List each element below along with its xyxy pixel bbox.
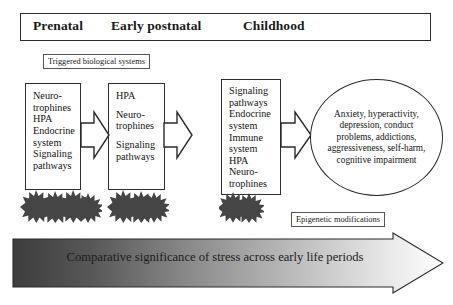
stage-line: Neuro-: [229, 166, 280, 178]
stage-line: trophines: [116, 120, 164, 132]
stage-line: HPA: [116, 90, 164, 102]
stage-line-gap: [116, 102, 164, 109]
period-label-early-postnatal: Early postnatal: [111, 18, 201, 34]
block-arrow-right-icon: [80, 110, 110, 160]
stage-line: pathways: [33, 160, 80, 172]
stage-line: HPA: [229, 155, 280, 167]
stage-line: Endocrine: [33, 125, 80, 137]
stage-line: system: [229, 120, 280, 132]
starburst-cluster-childhood-icon: [219, 192, 264, 223]
stage-line: pathways: [116, 151, 164, 163]
caption-epigenetic-modifications: Epigenetic modifications: [291, 212, 385, 227]
figure-canvas: Prenatal Early postnatal Childhood Trigg…: [0, 0, 453, 305]
period-label-prenatal: Prenatal: [33, 18, 83, 34]
stage-line: Signaling: [33, 148, 80, 160]
caption-triggered-biological-systems: Triggered biological systems: [43, 54, 150, 69]
stage-line-gap: [116, 132, 164, 139]
stage-line: trophines: [229, 178, 280, 190]
block-arrow-right-icon: [163, 110, 193, 160]
block-arrow-right-icon: [280, 110, 312, 160]
stage-line: system: [229, 143, 280, 155]
starburst-cluster-early-postnatal-icon: [107, 190, 169, 223]
bottom-arrow-label: Comparative significance of stress acros…: [50, 250, 380, 265]
stage-line: Signaling: [229, 85, 280, 97]
stage-line: Neuro-: [116, 109, 164, 121]
stage-line: system: [33, 137, 80, 149]
stage-line: trophines: [33, 102, 80, 114]
stage-box-prenatal: Neuro- trophines HPA Endocrine system Si…: [25, 83, 81, 190]
stage-line: Neuro-: [33, 90, 80, 102]
starburst-cluster-prenatal-icon: [20, 190, 102, 223]
stage-line: Endocrine: [229, 108, 280, 120]
stage-line: pathways: [229, 97, 280, 109]
period-label-childhood: Childhood: [243, 18, 305, 34]
stage-line: Immune: [229, 132, 280, 144]
outcome-ellipse: Anxiety, hyperactivity, depression, cond…: [310, 79, 443, 196]
stage-box-early-postnatal: HPA Neuro- trophines Signaling pathways: [108, 83, 165, 190]
period-band: Prenatal Early postnatal Childhood: [20, 13, 431, 41]
outcome-text: Anxiety, hyperactivity, depression, cond…: [325, 109, 429, 166]
stage-line: HPA: [33, 113, 80, 125]
stage-line: Signaling: [116, 139, 164, 151]
stage-box-childhood: Signaling pathways Endocrine system Immu…: [221, 79, 281, 195]
